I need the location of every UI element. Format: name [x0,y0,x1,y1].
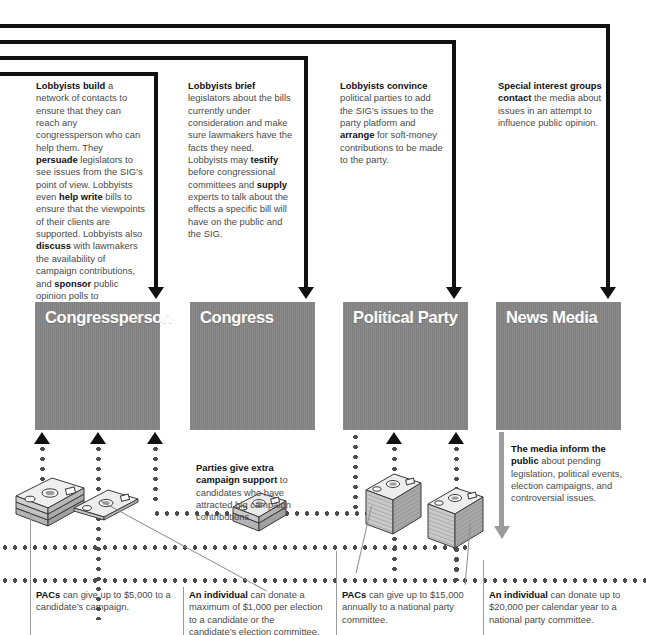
money-arrow-political-party-2 [448,432,464,444]
leader-rule-individual-party [483,560,484,635]
media-arrow-head [494,526,510,539]
flow-line-congress-horizontal [0,56,308,60]
flow-arrow-congressperson [148,287,164,299]
flow-line-congressperson-horizontal [0,72,158,76]
money-arrow-congressperson-3 [147,432,163,444]
flow-line-political-party-vertical [452,40,456,289]
note-lobbyists-brief: Lobbyists brief legislators about the bi… [188,80,296,240]
media-arrow-shaft [499,432,504,528]
actor-label-political-party: Political Party [353,308,458,327]
note-media-inform-public: The media inform the public about pendin… [511,443,633,505]
money-bus-lower [0,578,646,583]
money-bus-upper [0,545,470,550]
actor-box-congressperson[interactable]: Congressperson [35,302,160,430]
flow-line-congressperson-vertical [154,72,158,289]
actor-box-news-media[interactable]: News Media [496,302,621,430]
note-lobbyists-convince: Lobbyists convince political parties to … [340,80,445,166]
money-line-congressperson-3 [153,444,158,506]
actor-label-congressperson: Congressperson [45,308,172,327]
money-arrow-congressperson-2 [90,432,106,444]
flow-arrow-congress [298,287,314,299]
leader-rule-pac-party [336,551,337,635]
note-lobbyists-build: Lobbyists build a network of contacts to… [36,80,146,327]
note-sig-contact-media: Special interest groups contact the medi… [498,80,603,129]
note-pac-party-limit: PACs can give up to $15,000 annually to … [342,589,482,626]
leader-rule-pac-candidate [30,512,31,635]
note-individual-party-limit: An individual can donate up to $20,000 p… [489,589,629,626]
actor-label-congress: Congress [200,308,274,327]
flow-arrow-political-party [446,287,462,299]
actor-label-news-media: News Media [506,308,597,327]
money-line-party-support-vertical [353,432,358,514]
flow-arrow-news-media [600,287,616,299]
flow-line-news-media-horizontal [0,24,610,28]
cash-stack-individual-party-icon [425,482,487,554]
flow-line-political-party-horizontal [0,40,456,44]
leader-rule-individual-candidate [183,587,184,635]
flow-line-congress-vertical [304,56,308,289]
money-arrow-political-party-1 [386,432,402,444]
note-parties-give-support: Parties give extra campaign support to c… [196,462,306,524]
diagram-canvas: Lobbyists build a network of contacts to… [0,0,646,635]
note-pac-candidate-limit: PACs can give up to $5,000 to a candidat… [36,589,176,614]
actor-box-congress[interactable]: Congress [190,302,315,430]
cash-stack-pac-party-icon [363,468,425,540]
flow-line-news-media-vertical [606,24,610,289]
money-arrow-congressperson-1 [34,432,50,444]
note-individual-candidate-limit: An individual can donate a maximum of $1… [189,589,324,635]
actor-box-political-party[interactable]: Political Party [343,302,468,430]
